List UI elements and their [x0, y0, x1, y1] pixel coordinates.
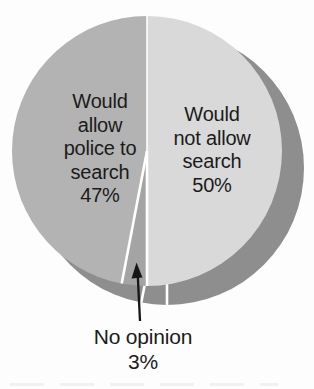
pie-chart-figure: Would allow police to search 47% Would n…	[0, 0, 314, 389]
slice-label-would-allow: Would allow police to search 47%	[64, 90, 137, 208]
annotation-label-no-opinion: No opinion 3%	[94, 325, 192, 375]
page-edge-artifact	[10, 383, 278, 386]
pie-layers	[12, 16, 304, 305]
slice-label-would-not-allow: Would not allow search 50%	[173, 103, 250, 197]
